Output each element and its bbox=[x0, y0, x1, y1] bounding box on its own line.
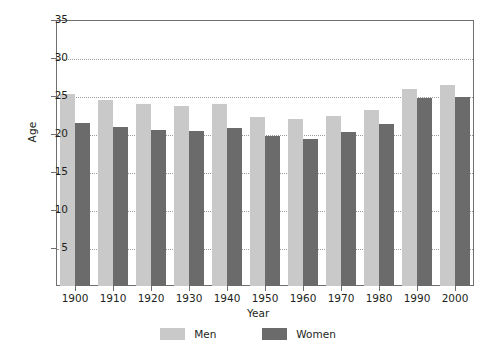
bar-group bbox=[360, 20, 398, 286]
y-axis-title: Age bbox=[26, 102, 38, 162]
legend-label-women: Women bbox=[296, 328, 336, 340]
bar-group bbox=[436, 20, 474, 286]
bar-group bbox=[398, 20, 436, 286]
bar-women-1940[interactable] bbox=[227, 128, 242, 286]
x-tick-mark bbox=[189, 286, 190, 291]
bar-group bbox=[322, 20, 360, 286]
legend-item-women[interactable]: Women bbox=[262, 328, 336, 340]
bar-men-1910[interactable] bbox=[98, 100, 113, 286]
bar-women-1990[interactable] bbox=[417, 98, 432, 286]
chart-legend: MenWomen bbox=[0, 328, 496, 340]
bar-group bbox=[246, 20, 284, 286]
x-tick-mark bbox=[455, 286, 456, 291]
bar-men-1900[interactable] bbox=[60, 94, 75, 286]
y-tick-mark bbox=[51, 20, 56, 21]
bar-men-1980[interactable] bbox=[364, 110, 379, 286]
bar-men-1930[interactable] bbox=[174, 106, 189, 286]
y-tick-mark bbox=[51, 172, 56, 173]
x-axis-title: Year bbox=[247, 307, 269, 319]
x-tick-mark bbox=[227, 286, 228, 291]
x-tick-mark bbox=[151, 286, 152, 291]
bar-women-1970[interactable] bbox=[341, 132, 356, 286]
legend-label-men: Men bbox=[194, 328, 216, 340]
x-tick-mark bbox=[113, 286, 114, 291]
bar-men-1920[interactable] bbox=[136, 104, 151, 286]
bar-men-1960[interactable] bbox=[288, 119, 303, 286]
y-tick-mark bbox=[51, 248, 56, 249]
y-tick-mark bbox=[51, 58, 56, 59]
bar-men-2000[interactable] bbox=[440, 85, 455, 286]
bar-women-2000[interactable] bbox=[455, 97, 470, 286]
x-tick-mark bbox=[75, 286, 76, 291]
bar-women-1920[interactable] bbox=[151, 130, 166, 286]
x-tick-mark bbox=[303, 286, 304, 291]
bar-chart: Age 510152025303519001910192019301940195… bbox=[0, 0, 496, 353]
legend-swatch-women bbox=[262, 328, 287, 340]
bar-group bbox=[170, 20, 208, 286]
bar-group bbox=[94, 20, 132, 286]
bars-layer bbox=[56, 20, 474, 286]
bar-women-1900[interactable] bbox=[75, 123, 90, 286]
x-tick-mark bbox=[265, 286, 266, 291]
x-tick-mark bbox=[417, 286, 418, 291]
bar-group bbox=[132, 20, 170, 286]
bar-women-1950[interactable] bbox=[265, 136, 280, 286]
y-tick-mark bbox=[51, 134, 56, 135]
bar-women-1960[interactable] bbox=[303, 139, 318, 286]
bar-group bbox=[284, 20, 322, 286]
y-tick-mark bbox=[51, 96, 56, 97]
bar-group bbox=[208, 20, 246, 286]
bar-men-1970[interactable] bbox=[326, 116, 341, 286]
bar-men-1950[interactable] bbox=[250, 117, 265, 286]
x-tick-mark bbox=[341, 286, 342, 291]
x-tick-label: 2000 bbox=[433, 292, 477, 304]
x-tick-mark bbox=[379, 286, 380, 291]
legend-item-men[interactable]: Men bbox=[160, 328, 216, 340]
bar-women-1930[interactable] bbox=[189, 131, 204, 286]
bar-women-1910[interactable] bbox=[113, 127, 128, 286]
bar-women-1980[interactable] bbox=[379, 124, 394, 286]
bar-men-1940[interactable] bbox=[212, 104, 227, 286]
bar-men-1990[interactable] bbox=[402, 89, 417, 286]
legend-swatch-men bbox=[160, 328, 185, 340]
y-tick-mark bbox=[51, 210, 56, 211]
